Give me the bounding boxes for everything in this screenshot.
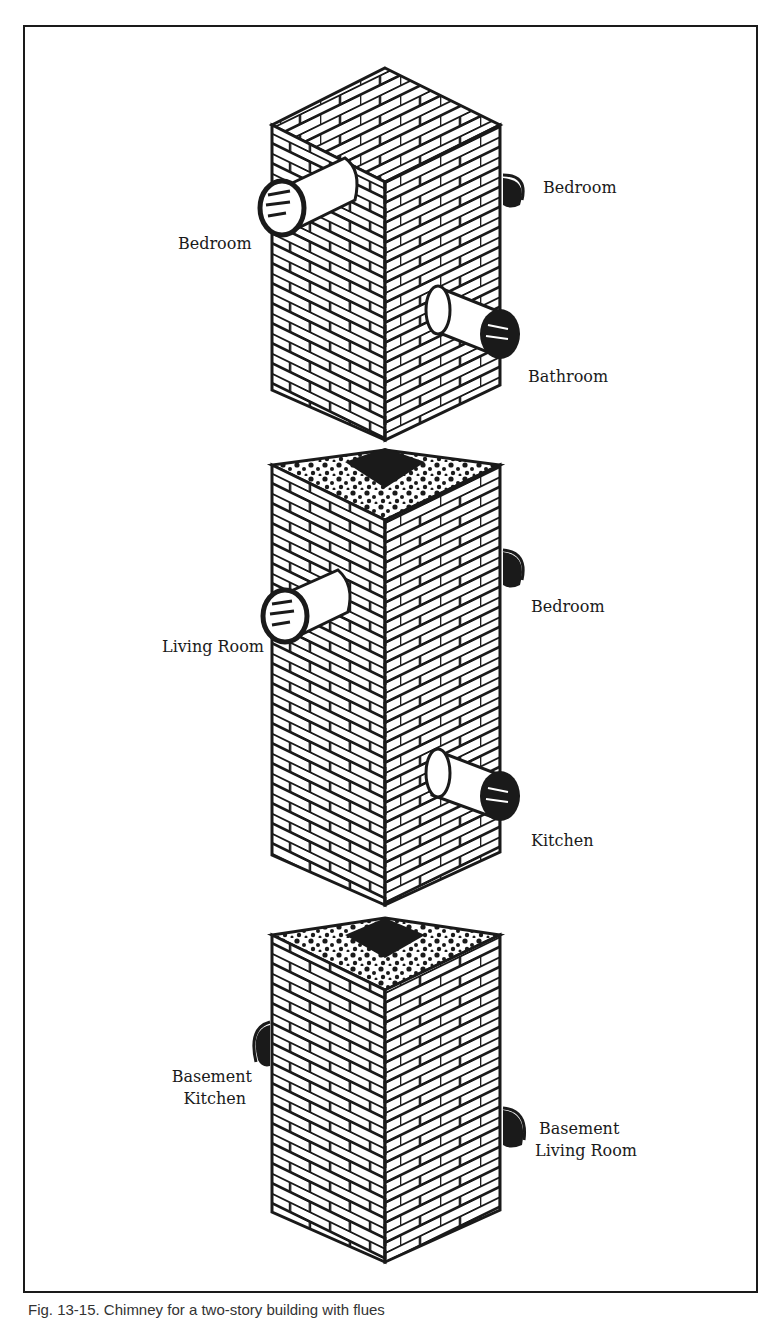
label-middle-right-kitchen: Kitchen	[531, 830, 594, 852]
label-line-2: Living Room	[535, 1140, 637, 1162]
label-middle-right-bedroom: Bedroom	[531, 596, 605, 618]
figure-caption: Fig. 13-15. Chimney for a two-story buil…	[28, 1301, 385, 1318]
label-middle-left-living-room: Living Room	[162, 636, 264, 658]
label-line-1: Basement	[170, 1066, 252, 1088]
flue-pipe-middle-right	[503, 550, 523, 588]
label-lower-left-basement-kitchen: Basement Kitchen	[170, 1066, 252, 1110]
flue-pipe-lower-right	[503, 1108, 525, 1148]
label-lower-right-basement-living-room: Basement Living Room	[535, 1118, 637, 1162]
chimney-section-lower	[272, 918, 500, 1262]
flue-pipe-lower-left	[254, 1022, 270, 1066]
label-upper-left-bedroom: Bedroom	[178, 233, 252, 255]
chimney-section-middle	[272, 448, 500, 905]
flue-pipe-upper-right	[503, 175, 523, 208]
label-line-2: Kitchen	[170, 1088, 252, 1110]
label-upper-right-bedroom: Bedroom	[543, 177, 617, 199]
label-upper-right-bathroom: Bathroom	[528, 366, 608, 388]
label-line-1: Basement	[535, 1118, 637, 1140]
chimney-section-upper	[272, 68, 500, 440]
